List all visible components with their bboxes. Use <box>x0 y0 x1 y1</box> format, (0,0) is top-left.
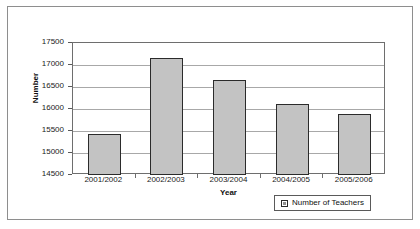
gridline <box>73 65 384 66</box>
y-axis-tick <box>68 174 72 175</box>
x-axis-tick <box>135 174 136 178</box>
bar <box>213 80 246 175</box>
y-axis-tick <box>68 64 72 65</box>
y-axis-tick <box>68 86 72 87</box>
legend-label: Number of Teachers <box>292 199 364 207</box>
bar <box>150 58 183 175</box>
x-axis-tick <box>322 174 323 178</box>
x-axis-tick-label: 2003/2004 <box>197 176 260 184</box>
y-axis-tick <box>68 130 72 131</box>
y-axis-tick <box>68 42 72 43</box>
y-axis-tick-label: 15000 <box>4 148 64 156</box>
y-axis-tick <box>68 108 72 109</box>
x-axis-tick-label: 2002/2003 <box>135 176 198 184</box>
bar <box>276 104 309 175</box>
bar-chart: 14500150001550016000165001700017500 2001… <box>0 0 420 229</box>
y-axis-tick <box>68 152 72 153</box>
chart-legend: Number of Teachers <box>274 195 371 211</box>
x-axis-tick-label: 2005/2006 <box>322 176 385 184</box>
bar <box>88 134 121 175</box>
y-axis-title: Number <box>32 63 40 113</box>
plot-area <box>72 42 385 174</box>
chart-screenshot: 14500150001550016000165001700017500 2001… <box>0 0 420 229</box>
y-axis-tick-label: 14500 <box>4 170 64 178</box>
y-axis-tick-label: 15500 <box>4 126 64 134</box>
bar <box>338 114 371 175</box>
x-axis-tick-label: 2004/2005 <box>260 176 323 184</box>
y-axis-tick-label: 17500 <box>4 38 64 46</box>
x-axis-tick <box>197 174 198 178</box>
x-axis-tick <box>260 174 261 178</box>
x-axis-tick-label: 2001/2002 <box>72 176 135 184</box>
legend-swatch-icon <box>281 200 288 207</box>
